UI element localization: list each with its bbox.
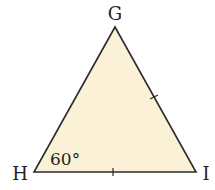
angle-label-h: 60° <box>50 149 80 169</box>
triangle-diagram: G H I 60° <box>0 0 215 190</box>
vertex-label-i: I <box>202 163 209 184</box>
vertex-label-g: G <box>108 3 122 24</box>
vertex-label-h: H <box>12 163 28 184</box>
